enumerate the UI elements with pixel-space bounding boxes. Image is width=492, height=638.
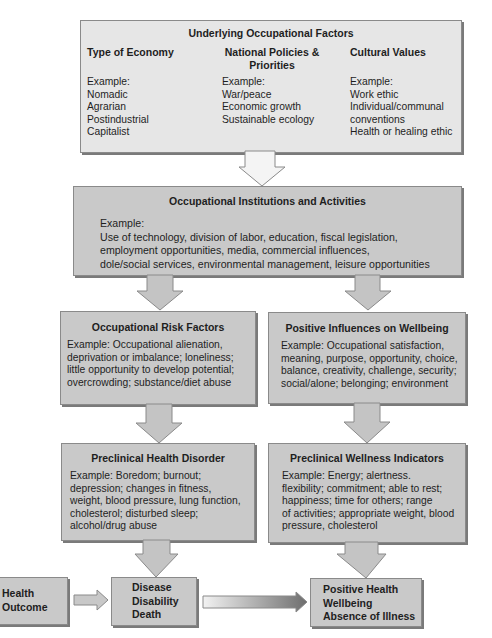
list-item: Postindustrial — [87, 114, 174, 127]
negative-outcome-box: Disease Disability Death — [111, 577, 197, 626]
text-line: happiness; time for others; range — [282, 495, 465, 508]
example-label: Example: — [350, 76, 452, 89]
outcome-line: Absence of Illness — [323, 610, 421, 624]
list-item: conventions — [350, 114, 452, 127]
national-policies-column: National Policies & Priorities Example: … — [217, 46, 327, 126]
outcome-line: Disease — [132, 581, 196, 595]
cultural-values-column: Cultural Values Example: Work ethic Indi… — [350, 46, 452, 139]
health-outcome-label: Health — [2, 587, 67, 601]
underlying-factors-title: Underlying Occupational Factors — [81, 27, 461, 40]
institutions-box: Occupational Institutions and Activities… — [73, 186, 462, 276]
list-item: Health or healing ethic — [350, 126, 452, 139]
text-line: dole/social services, environmental mana… — [100, 258, 461, 272]
list-item: Individual/communal — [350, 101, 452, 114]
outcome-line: Disability — [132, 595, 196, 609]
list-item: Work ethic — [350, 89, 452, 102]
text-line: Example: Boredom; burnout; — [70, 470, 254, 483]
text-line: little opportunity to develop potential; — [67, 364, 255, 377]
down-arrow-icon — [238, 151, 288, 187]
preclinical-wellness-box: Preclinical Wellness Indicators Example:… — [268, 443, 466, 543]
positive-outcome-box: Positive Health Wellbeing Absence of Ill… — [310, 578, 422, 627]
right-arrow-icon — [74, 590, 110, 612]
risk-factors-title: Occupational Risk Factors — [61, 321, 255, 334]
down-arrow-icon — [134, 540, 180, 578]
text-line: social/alone; belonging; environment — [281, 378, 465, 391]
list-item: War/peace — [222, 89, 327, 102]
outcome-line: Positive Health — [323, 583, 421, 597]
example-label: Example: — [87, 76, 174, 89]
risk-factors-box: Occupational Risk Factors Example: Occup… — [60, 311, 256, 405]
down-arrow-icon — [135, 404, 185, 444]
health-outcome-label: Outcome — [2, 601, 67, 615]
gradient-right-arrow-icon — [203, 592, 311, 614]
text-line: flexibility; commitment; able to rest; — [282, 483, 465, 496]
outcome-line: Death — [132, 608, 196, 622]
institutions-title: Occupational Institutions and Activities — [74, 195, 461, 208]
text-line: Example: Energy; alertness. — [282, 470, 465, 483]
list-item: Economic growth — [222, 101, 327, 114]
text-line: Use of technology, division of labor, ed… — [100, 231, 461, 245]
underlying-factors-box: Underlying Occupational Factors Type of … — [80, 20, 462, 153]
text-line: Example: Occupational satisfaction, — [281, 340, 465, 353]
type-of-economy-column: Type of Economy Example: Nomadic Agraria… — [87, 46, 174, 139]
down-arrow-icon — [136, 275, 186, 311]
text-line: balance, creativity, challenge, security… — [281, 365, 465, 378]
text-line: alcohol/drug abuse — [70, 520, 254, 533]
preclinical-wellness-title: Preclinical Wellness Indicators — [269, 452, 465, 465]
example-label: Example: — [100, 217, 461, 231]
text-line: overcrowding; substance/diet abuse — [67, 377, 255, 390]
column-heading: National Policies & — [217, 46, 327, 59]
down-arrow-icon — [343, 403, 393, 443]
column-heading: Priorities — [217, 59, 327, 72]
health-outcome-box: Health Outcome — [0, 577, 68, 625]
positive-influences-box: Positive Influences on Wellbeing Example… — [268, 312, 466, 404]
example-label: Example: — [222, 76, 327, 89]
text-line: meaning, purpose, opportunity, choice, — [281, 353, 465, 366]
text-line: pressure, cholesterol — [282, 520, 465, 533]
text-line: weight, blood pressure, lung function, — [70, 495, 254, 508]
positive-influences-title: Positive Influences on Wellbeing — [269, 322, 465, 335]
list-item: Capitalist — [87, 126, 174, 139]
list-item: Nomadic — [87, 89, 174, 102]
outcome-line: Wellbeing — [323, 597, 421, 611]
text-line: employment opportunities, media, commerc… — [100, 244, 461, 258]
down-arrow-icon — [336, 542, 388, 580]
list-item: Agrarian — [87, 101, 174, 114]
preclinical-disorder-title: Preclinical Health Disorder — [62, 452, 254, 465]
column-heading: Type of Economy — [87, 46, 174, 59]
text-line: depression; changes in fitness, — [70, 483, 254, 496]
column-heading: Cultural Values — [350, 46, 452, 59]
text-line: of activities; appropriate weight, blood — [282, 508, 465, 521]
text-line: deprivation or imbalance; loneliness; — [67, 352, 255, 365]
preclinical-disorder-box: Preclinical Health Disorder Example: Bor… — [61, 443, 255, 541]
down-arrow-icon — [344, 275, 394, 311]
text-line: Example: Occupational alienation, — [67, 339, 255, 352]
text-line: cholesterol; disturbed sleep; — [70, 508, 254, 521]
list-item: Sustainable ecology — [222, 114, 327, 127]
